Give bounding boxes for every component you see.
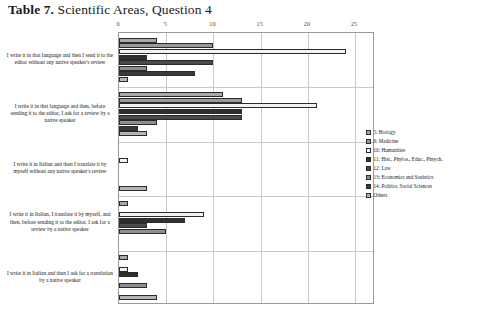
swatch-series-2: [366, 148, 371, 153]
swatch-series-0: [366, 130, 371, 135]
legend-item-4[interactable]: 12: Law: [366, 164, 481, 173]
legend-label-5: 13: Economics and Statistics: [374, 173, 434, 182]
x-tick-label: 25: [351, 20, 357, 27]
x-tick-label: 10: [209, 20, 215, 27]
swatch-series-3: [366, 157, 371, 162]
swatch-series-6: [366, 184, 371, 189]
category-label-1: I write it in that language and then, be…: [6, 103, 114, 125]
legend-item-5[interactable]: 13: Economics and Statistics: [366, 173, 481, 182]
legend-label-0: 5: Biology: [374, 128, 396, 137]
x-tick-label: 0: [116, 20, 119, 27]
category-label-2: I write it in Italian and then I transla…: [6, 161, 114, 175]
x-tick-label: 20: [304, 20, 310, 27]
figure-page: Table 7. Scientific Areas, Question 4 05…: [0, 0, 485, 316]
category-label-0: I write it in that language and then I s…: [6, 52, 114, 66]
legend-label-3: 11: Hist., Phylos., Educ., Phsych.: [374, 155, 443, 164]
category-label-4: I write it in Italian and then I ask for…: [6, 270, 114, 284]
swatch-series-4: [366, 166, 371, 171]
legend-label-7: Others: [374, 191, 388, 200]
legend-item-1[interactable]: 6: Medicine: [366, 137, 481, 146]
legend-item-7[interactable]: Others: [366, 191, 481, 200]
legend-label-1: 6: Medicine: [374, 137, 399, 146]
legend-item-0[interactable]: 5: Biology: [366, 128, 481, 137]
legend-item-3[interactable]: 11: Hist., Phylos., Educ., Phsych.: [366, 155, 481, 164]
legend-item-6[interactable]: 14: Politics, Social Sciences: [366, 182, 481, 191]
x-tick-label: 5: [164, 20, 167, 27]
swatch-series-5: [366, 175, 371, 180]
swatch-series-7: [366, 193, 371, 198]
legend-label-2: 10: Humanities: [374, 146, 406, 155]
legend-label-6: 14: Politics, Social Sciences: [374, 182, 433, 191]
legend-item-2[interactable]: 10: Humanities: [366, 146, 481, 155]
swatch-series-1: [366, 139, 371, 144]
chart-legend: 5: Biology6: Medicine10: Humanities11: H…: [366, 128, 481, 200]
x-tick-label: 15: [257, 20, 263, 27]
category-label-3: I write it in Italian, I translate it by…: [6, 211, 114, 233]
legend-label-4: 12: Law: [374, 164, 391, 173]
